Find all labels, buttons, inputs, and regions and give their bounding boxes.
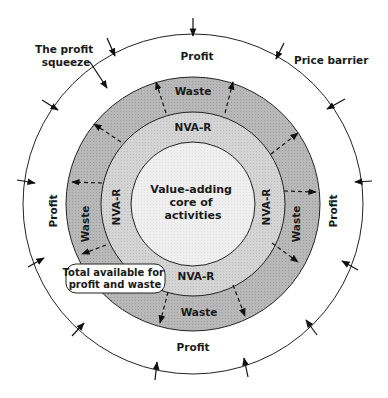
nvar-label-top: NVA-R [175, 121, 212, 133]
total-available-line2: profit and waste [69, 279, 162, 290]
waste-label-top: Waste [175, 85, 212, 97]
core-label-line1: Value-adding [150, 183, 232, 196]
profit-squeeze-label-line2: squeeze [42, 56, 91, 68]
waste-label-left: Waste [79, 206, 91, 243]
nvar-label-bottom: NVA-R [178, 270, 215, 282]
profit-squeeze-label-line1: The profit [35, 43, 93, 55]
svg-text:The profit squeeze: The profit squeeze [35, 43, 97, 68]
waste-label-right: Waste [290, 206, 302, 243]
total-available-line1: Total available for [63, 267, 164, 278]
core-label-line2: core of [170, 196, 213, 209]
profit-label-top: Profit [181, 50, 214, 62]
profit-label-left: Profit [47, 195, 59, 228]
nvar-label-left: NVA-R [110, 189, 122, 226]
profit-squeeze-diagram: Value-adding core of activities NVA-R NV… [0, 0, 388, 398]
core-label-line3: activities [165, 209, 222, 222]
waste-label-bottom: Waste [181, 306, 218, 318]
svg-text:Total available for profit: Total available for profit and waste [63, 267, 168, 290]
profit-label-bottom: Profit [177, 341, 210, 353]
nvar-label-right: NVA-R [260, 189, 272, 226]
profit-label-right: Profit [327, 195, 339, 228]
price-barrier-label: Price barrier [294, 54, 369, 66]
